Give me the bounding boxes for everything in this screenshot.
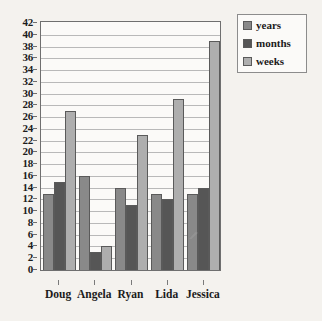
y-tick-label: 14: [22, 181, 33, 193]
y-tick-label: 28: [22, 98, 33, 110]
y-tick-mark: [33, 210, 37, 211]
legend: years months weeks: [237, 14, 307, 73]
bar-group: [77, 22, 113, 270]
y-tick-label: 20: [22, 145, 33, 157]
y-tick-mark: [33, 222, 37, 223]
x-tick-mark: [58, 280, 59, 285]
y-tick-mark: [33, 140, 37, 141]
legend-swatch-icon-years: [243, 21, 252, 30]
y-tick-mark: [33, 57, 37, 58]
y-tick-mark: [33, 22, 37, 23]
y-tick-label: 10: [22, 204, 33, 216]
y-tick-mark: [33, 34, 37, 35]
x-tick-mark: [203, 280, 204, 285]
bar[interactable]: [79, 176, 90, 270]
y-tick-label: 36: [22, 51, 33, 63]
bar[interactable]: [126, 205, 137, 270]
y-tick-label: 12: [22, 192, 33, 204]
bar[interactable]: [162, 199, 173, 270]
legend-label-weeks: weeks: [256, 56, 284, 67]
y-tick-mark: [33, 69, 37, 70]
y-tick-mark: [33, 245, 37, 246]
bar[interactable]: [137, 135, 148, 270]
x-tick-mark: [167, 280, 168, 285]
bar-chart: 024681012141618202224262830323436384042 …: [0, 0, 322, 321]
y-tick-mark: [33, 104, 37, 105]
y-tick-mark: [33, 198, 37, 199]
x-tick-label: Doug: [45, 288, 71, 300]
x-tick-label: Jessica: [186, 288, 220, 300]
bar-group: [150, 22, 186, 270]
legend-item-weeks[interactable]: weeks: [243, 56, 302, 67]
bar[interactable]: [54, 182, 65, 270]
x-tick-label: Lida: [155, 288, 178, 300]
bar[interactable]: [115, 188, 126, 270]
bar-group: [41, 22, 77, 270]
legend-item-months[interactable]: months: [243, 38, 302, 49]
x-axis: DougAngelaRyanLidaJessica: [40, 280, 221, 302]
y-tick-label: 42: [22, 16, 33, 28]
y-axis: 024681012141618202224262830323436384042: [0, 21, 37, 271]
plot-area: [40, 21, 221, 271]
legend-label-months: months: [256, 38, 291, 49]
y-tick-label: 24: [22, 122, 33, 134]
y-tick-label: 22: [22, 134, 33, 146]
y-tick-mark: [33, 257, 37, 258]
y-tick-label: 18: [22, 157, 33, 169]
legend-swatch-icon-months: [243, 39, 252, 48]
legend-item-years[interactable]: years: [243, 20, 302, 31]
y-tick-mark: [33, 187, 37, 188]
bar[interactable]: [43, 194, 54, 270]
bar-group: [186, 22, 222, 270]
y-tick-mark: [33, 46, 37, 47]
bar[interactable]: [187, 194, 198, 270]
bars-layer: [41, 22, 220, 270]
x-tick-mark: [131, 280, 132, 285]
legend-label-years: years: [256, 20, 281, 31]
y-tick-label: 38: [22, 40, 33, 52]
y-tick-label: 30: [22, 87, 33, 99]
y-tick-mark: [33, 151, 37, 152]
bar[interactable]: [198, 188, 209, 270]
y-tick-mark: [33, 116, 37, 117]
y-tick-mark: [33, 163, 37, 164]
bar[interactable]: [101, 246, 112, 270]
legend-swatch-icon-weeks: [243, 57, 252, 66]
bar-group: [113, 22, 149, 270]
y-tick-mark: [33, 81, 37, 82]
y-tick-label: 32: [22, 75, 33, 87]
bar[interactable]: [65, 111, 76, 270]
x-tick-mark: [94, 280, 95, 285]
x-tick-label: Ryan: [118, 288, 144, 300]
y-tick-label: 40: [22, 28, 33, 40]
y-tick-mark: [33, 234, 37, 235]
bar[interactable]: [151, 194, 162, 270]
y-tick-label: 26: [22, 110, 33, 122]
y-tick-mark: [33, 128, 37, 129]
y-tick-label: 34: [22, 63, 33, 75]
y-tick-mark: [33, 93, 37, 94]
y-tick-mark: [33, 175, 37, 176]
y-tick-label: 16: [22, 169, 33, 181]
y-tick-mark: [33, 269, 37, 270]
x-tick-label: Angela: [77, 288, 112, 300]
bar[interactable]: [90, 252, 101, 270]
bar[interactable]: [209, 41, 220, 270]
bar[interactable]: [173, 99, 184, 270]
